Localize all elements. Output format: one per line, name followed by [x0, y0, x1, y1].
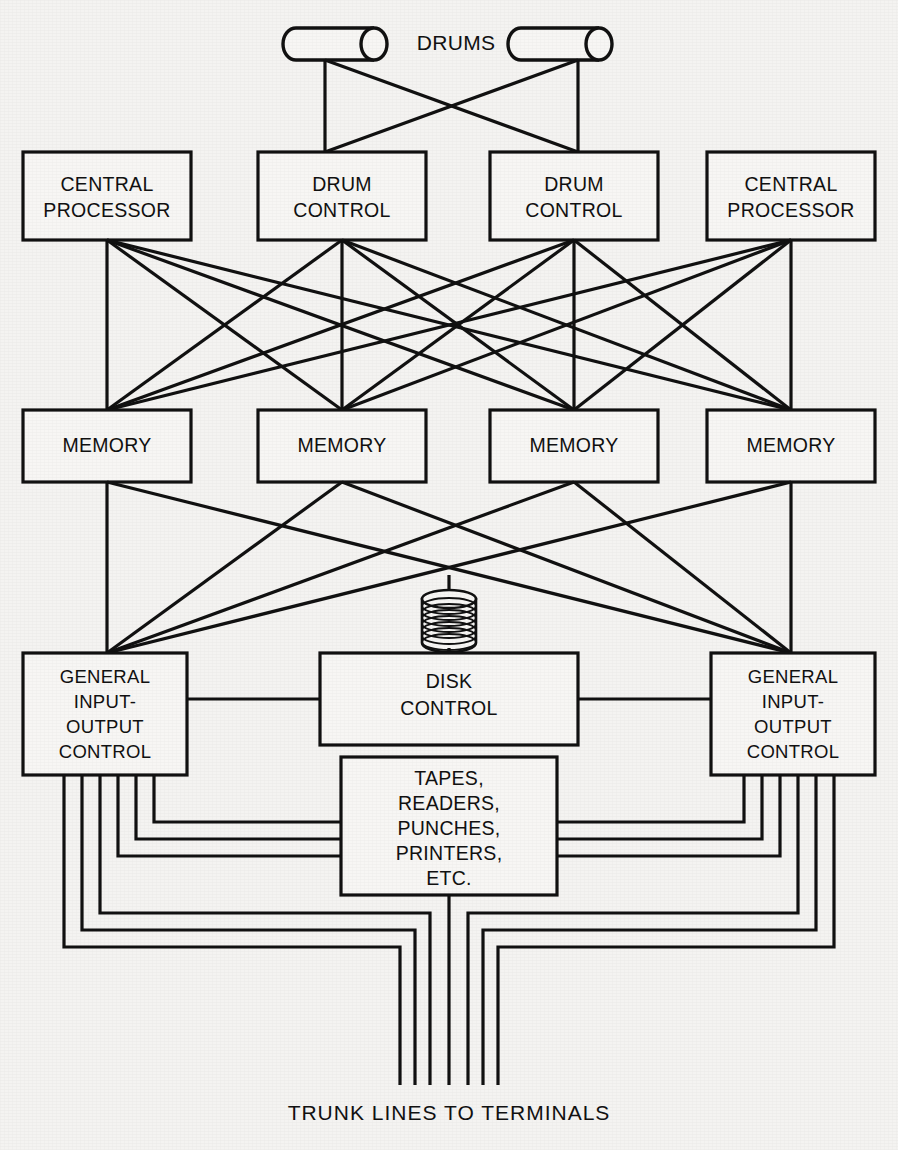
gioc-right-line1: GENERAL — [748, 666, 839, 687]
cpu-right-line2: PROCESSOR — [727, 199, 854, 221]
cpu-left-line1: CENTRAL — [60, 173, 153, 195]
drum-right — [508, 28, 612, 60]
box-drum-control-left[interactable]: DRUM CONTROL — [258, 152, 426, 240]
box-drum-control-right[interactable]: DRUM CONTROL — [490, 152, 658, 240]
box-memory-3[interactable]: MEMORY — [490, 410, 658, 482]
box-central-processor-right[interactable]: CENTRAL PROCESSOR — [707, 152, 875, 240]
memory-4-label: MEMORY — [746, 434, 835, 456]
cpu-left-line2: PROCESSOR — [43, 199, 170, 221]
box-general-io-control-right[interactable]: GENERAL INPUT- OUTPUT CONTROL — [711, 653, 875, 775]
box-memory-4[interactable]: MEMORY — [707, 410, 875, 482]
gioc-right-line3: OUTPUT — [754, 716, 832, 737]
memory-2-label: MEMORY — [297, 434, 386, 456]
drum-control-right-line1: DRUM — [544, 173, 604, 195]
system-block-diagram: DRUMS CENTRAL PROCESSOR DRUM CONTROL DRU… — [0, 0, 898, 1150]
memory-1-label: MEMORY — [62, 434, 151, 456]
gioc-right-line2: INPUT- — [762, 691, 824, 712]
diagram-canvas: DRUMS CENTRAL PROCESSOR DRUM CONTROL DRU… — [0, 0, 898, 1150]
peripherals-line2: READERS, — [398, 792, 500, 814]
memory-3-label: MEMORY — [529, 434, 618, 456]
disk-control-line2: CONTROL — [400, 697, 497, 719]
box-peripherals[interactable]: TAPES, READERS, PUNCHES, PRINTERS, ETC. — [341, 757, 557, 895]
gioc-right-line4: CONTROL — [747, 741, 840, 762]
peripherals-line4: PRINTERS, — [396, 842, 503, 864]
gioc-left-line2: INPUT- — [74, 691, 136, 712]
gioc-left-line4: CONTROL — [59, 741, 152, 762]
trunk-lines-caption: TRUNK LINES TO TERMINALS — [288, 1101, 611, 1124]
cpu-right-line1: CENTRAL — [744, 173, 837, 195]
drum-wiring — [325, 60, 578, 152]
drum-control-right-line2: CONTROL — [525, 199, 622, 221]
drum-control-left-line2: CONTROL — [293, 199, 390, 221]
box-central-processor-left[interactable]: CENTRAL PROCESSOR — [23, 152, 191, 240]
crossbar-processors-to-memories — [107, 240, 791, 410]
disk-control-line1: DISK — [426, 670, 473, 692]
peripherals-line5: ETC. — [426, 867, 472, 889]
disk-pack — [422, 575, 476, 653]
box-memory-2[interactable]: MEMORY — [258, 410, 426, 482]
peripherals-line3: PUNCHES, — [397, 817, 500, 839]
drums-label: DRUMS — [417, 31, 496, 54]
gioc-left-line3: OUTPUT — [66, 716, 144, 737]
box-disk-control[interactable]: DISK CONTROL — [320, 653, 578, 745]
drum-left — [283, 28, 387, 60]
box-memory-1[interactable]: MEMORY — [23, 410, 191, 482]
gioc-left-line1: GENERAL — [60, 666, 151, 687]
peripherals-line1: TAPES, — [414, 767, 484, 789]
box-general-io-control-left[interactable]: GENERAL INPUT- OUTPUT CONTROL — [23, 653, 187, 775]
drum-control-left-line1: DRUM — [312, 173, 372, 195]
